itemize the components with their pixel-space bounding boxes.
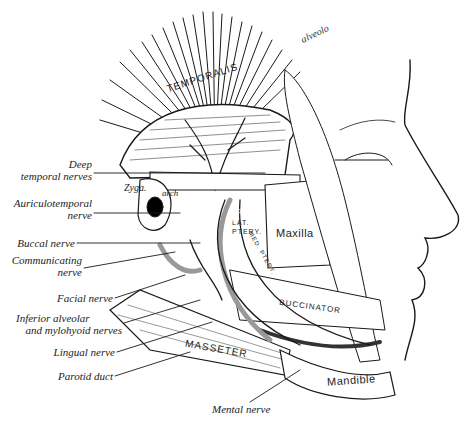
label-communicating-nerve: Communicating nerve: [0, 254, 82, 278]
label-line: Facial nerve: [0, 292, 113, 304]
label-line: Parotid duct: [0, 370, 113, 382]
label-line: and mylohyoid nerves: [0, 324, 122, 336]
label-line: Mental nerve: [212, 403, 270, 415]
label-facial-nerve: Facial nerve: [0, 292, 113, 304]
label-line: Lingual nerve: [0, 346, 115, 358]
label-parotid-duct: Parotid duct: [0, 370, 113, 382]
label-deep-temporal-nerves: Deep temporal nerves: [20, 158, 92, 182]
label-line: temporal nerves: [20, 170, 92, 182]
label-lingual-nerve: Lingual nerve: [0, 346, 115, 358]
label-arch: arch: [162, 187, 178, 199]
label-auriculotemporal-nerve: Auriculotemporal nerve: [0, 197, 92, 221]
label-line: Deep: [20, 158, 92, 170]
label-line: Inferior alveolar: [0, 312, 122, 324]
label-buccal-nerve: Buccal nerve: [0, 237, 75, 249]
label-mental-nerve: Mental nerve: [212, 403, 270, 415]
label-line: Auriculotemporal: [0, 197, 92, 209]
anatomy-figure: Deep temporal nerves Auriculotemporal ne…: [0, 0, 476, 424]
label-line: nerve: [0, 209, 92, 221]
label-inferior-alveolar-nerves: Inferior alveolar and mylohyoid nerves: [0, 312, 122, 336]
label-line: Communicating: [0, 254, 82, 266]
label-zyga: Zyga.: [124, 182, 147, 194]
label-maxilla: Maxilla: [276, 227, 314, 239]
label-line: nerve: [0, 266, 82, 278]
label-line: Buccal nerve: [0, 237, 75, 249]
